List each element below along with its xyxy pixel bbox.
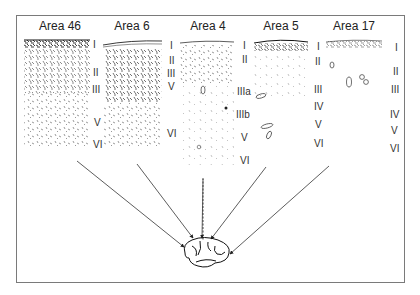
area-4-tissue [180,41,234,240]
area-6-layer-III: III [167,69,175,79]
area-46-layer-III: III [92,85,100,95]
area-5-tissue [254,40,308,139]
area-4-layer-I: I [243,41,246,51]
area-46-layer-VI: VI [93,140,102,150]
area-4-layer-IIIb: IIIb [236,110,250,120]
area-17-layer-II: II [393,67,399,77]
area-17-layer-IV: IV [390,110,399,120]
area-46-layer-II: II [93,68,99,78]
area-5-layer-III: III [314,85,322,95]
area-6-layer-V: V [168,82,175,92]
area-6-tissue [103,41,162,148]
cortex-diagram [0,0,420,295]
area-6-layer-VI: VI [167,129,176,139]
area-5-layer-II: II [315,57,321,67]
area-17-layer-VI: VI [390,144,399,154]
area-5-layer-V: V [315,120,322,130]
area-6-layer-I: I [170,41,173,51]
area-5-layer-IV: IV [314,102,323,112]
area-17-layer-III: III [391,85,399,95]
area-46-tissue [24,40,90,148]
area-5-layer-VI: VI [314,139,323,149]
area-17-layer-V: V [391,126,398,136]
area-46-layer-I: I [93,40,96,50]
brain-illustration [184,238,229,268]
area-46-layer-V: V [94,118,101,128]
area-17-layer-I: I [395,43,398,53]
area-17-tissue [326,40,382,87]
area-4-layer-V: V [241,133,248,143]
area-4-layer-IIIa: IIIa [237,87,251,97]
area-5-layer-I: I [317,42,320,52]
area-4-layer-II: II [242,55,248,65]
area-4-layer-VI: VI [240,156,249,166]
area-6-layer-II: II [169,56,175,66]
